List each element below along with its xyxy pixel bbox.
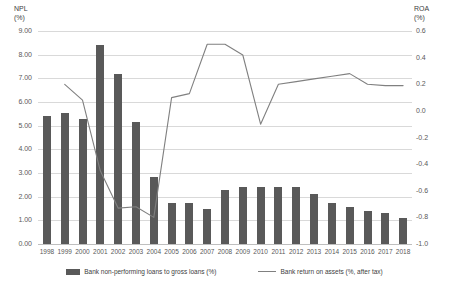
plot-area — [38, 31, 412, 244]
x-axis-tick-label: 2005 — [163, 247, 181, 256]
y-axis-right-tick-label: -0.4 — [416, 160, 442, 168]
legend-bar-swatch-icon — [66, 269, 80, 275]
y-axis-right-tick-label: 0.6 — [416, 27, 442, 35]
y-axis-left-tick-label: 4.00 — [8, 145, 32, 153]
y-axis-left-tick-label: 2.00 — [8, 193, 32, 201]
x-axis-tick-label: 2009 — [234, 247, 252, 256]
x-axis-tick-label: 2010 — [252, 247, 270, 256]
y-axis-right-title: ROA (%) — [414, 5, 429, 22]
y-axis-right-tick-label: -0.2 — [416, 134, 442, 142]
x-axis-tick-label: 2000 — [74, 247, 92, 256]
x-axis-tick-label: 2015 — [341, 247, 359, 256]
x-axis-tick-label: 2017 — [376, 247, 394, 256]
x-axis-tick-label: 2018 — [394, 247, 412, 256]
x-axis-tick-label: 2016 — [359, 247, 377, 256]
y-axis-right-tick-label: 0.4 — [416, 54, 442, 62]
chart-container: NPL (%) ROA (%) 0.001.002.003.004.005.00… — [0, 0, 449, 288]
y-axis-left-tick-label: 5.00 — [8, 122, 32, 130]
x-axis-tick-label: 2012 — [287, 247, 305, 256]
x-axis-tick-label: 1998 — [38, 247, 56, 256]
y-axis-right-tick-label: 0.0 — [416, 107, 442, 115]
x-axis-tick-label: 2004 — [145, 247, 163, 256]
legend-item-npl[interactable]: Bank non-performing loans to gross loans… — [66, 268, 216, 275]
x-axis-tick-label: 2007 — [198, 247, 216, 256]
x-axis-tick-label: 2008 — [216, 247, 234, 256]
line-series — [38, 31, 412, 244]
legend-line-swatch-icon — [258, 271, 276, 272]
legend-item-label: Bank return on assets (%, after tax) — [280, 268, 382, 275]
y-axis-left-title: NPL (%) — [14, 5, 28, 22]
y-axis-right-tick-label: 0.2 — [416, 80, 442, 88]
y-axis-left-tick-label: 6.00 — [8, 98, 32, 106]
y-axis-right-tick-label: -0.6 — [416, 187, 442, 195]
x-axis-tick-label: 2014 — [323, 247, 341, 256]
line-path — [65, 44, 403, 217]
gridline — [38, 244, 412, 245]
legend-item-roa[interactable]: Bank return on assets (%, after tax) — [258, 268, 382, 275]
x-axis-tick-label: 2006 — [181, 247, 199, 256]
x-axis-tick-label: 2002 — [109, 247, 127, 256]
legend: Bank non-performing loans to gross loans… — [0, 268, 449, 275]
y-axis-right-tick-label: -1.0 — [416, 240, 442, 248]
y-axis-left-tick-label: 8.00 — [8, 51, 32, 59]
x-axis-tick-label: 1999 — [56, 247, 74, 256]
y-axis-left-tick-label: 1.00 — [8, 216, 32, 224]
y-axis-left-tick-label: 9.00 — [8, 27, 32, 35]
x-axis-tick-label: 2003 — [127, 247, 145, 256]
y-axis-left-tick-label: 7.00 — [8, 74, 32, 82]
y-axis-right-tick-label: -0.8 — [416, 213, 442, 221]
y-axis-left-tick-label: 3.00 — [8, 169, 32, 177]
legend-item-label: Bank non-performing loans to gross loans… — [84, 268, 216, 275]
x-axis-tick-label: 2013 — [305, 247, 323, 256]
x-axis-tick-label: 2011 — [270, 247, 288, 256]
x-axis-tick-label: 2001 — [91, 247, 109, 256]
y-axis-left-tick-label: 0.00 — [8, 240, 32, 248]
